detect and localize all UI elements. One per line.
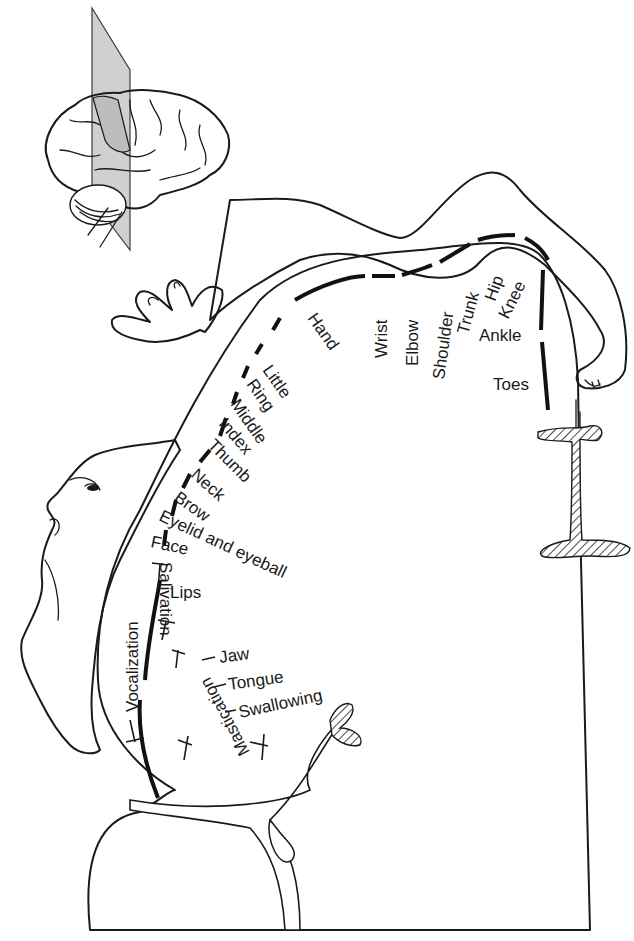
label-wrist: Wrist <box>372 319 391 358</box>
homunculus-figure: Hand Wrist Elbow Shoulder Trunk Hip Knee… <box>0 0 634 941</box>
label-shoulder: Shoulder <box>429 310 457 380</box>
label-tongue: Tongue <box>227 667 285 694</box>
label-salivation: Salivation <box>156 562 175 636</box>
label-jaw: Jaw <box>218 644 251 667</box>
label-elbow: Elbow <box>403 319 422 366</box>
body-part-labels: Hand Wrist Elbow Shoulder Trunk Hip Knee… <box>123 273 530 760</box>
label-toes: Toes <box>493 375 529 394</box>
label-hand: Hand <box>304 309 343 353</box>
hatched-sulcus-tip <box>330 703 361 745</box>
label-ankle: Ankle <box>479 326 522 345</box>
hand-fingers <box>112 280 223 342</box>
brain-outline <box>46 90 229 208</box>
homunculus-body <box>21 173 626 754</box>
label-vocalization: Vocalization <box>123 621 142 712</box>
brain-inset <box>46 8 229 250</box>
hatched-ventricle <box>538 426 630 558</box>
